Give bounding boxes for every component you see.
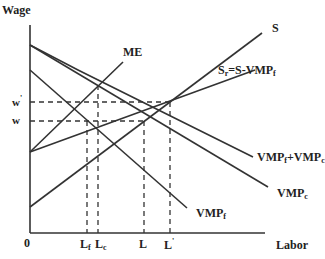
lc-tick: Lc — [95, 237, 107, 252]
x-axis-label: Labor — [276, 238, 308, 253]
vmpf-curve — [30, 70, 187, 208]
vmpf-label: VMPf — [196, 206, 226, 221]
me-curve-label: ME — [123, 45, 142, 60]
y-axis-label: Wage — [2, 3, 31, 18]
supply-curve-sr — [30, 70, 255, 152]
l-tick: L — [139, 237, 147, 252]
l-prime-tick: L' — [164, 237, 174, 253]
supply-curve-s — [30, 33, 262, 207]
w-tick: w — [12, 114, 20, 126]
vmpc-label: VMPc — [277, 186, 308, 201]
w-prime-tick: w' — [12, 94, 22, 108]
s-curve-label: S — [272, 21, 279, 36]
lf-tick: Lf — [80, 237, 91, 252]
origin-label: 0 — [24, 236, 30, 251]
vmp-sum-label: VMPf+VMPc — [257, 150, 325, 165]
sr-curve-label: Sr=S-VMPf — [218, 63, 276, 78]
